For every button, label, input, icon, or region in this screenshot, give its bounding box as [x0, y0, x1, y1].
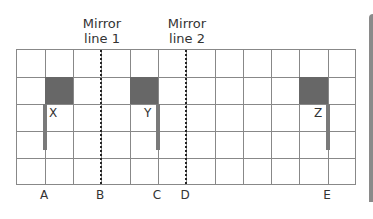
shape-z-label: Z [314, 106, 322, 120]
shape-y-square [130, 77, 158, 104]
grid-line [130, 50, 131, 184]
shape-x-label: X [49, 106, 57, 120]
axis-label-b: B [93, 188, 107, 202]
mirror-line-1-title-top: Mirror [72, 16, 132, 31]
mirror-line-1-title-bottom: line 1 [72, 31, 132, 46]
mirror-line-1 [100, 50, 102, 184]
shape-y-stem [156, 104, 160, 150]
grid-line [215, 50, 216, 184]
axis-label-d: D [178, 188, 192, 202]
shape-z-stem [326, 104, 330, 150]
grid-line [299, 50, 300, 184]
mirror-line-2-title: Mirror line 2 [157, 16, 217, 46]
square-grid: X Y Z [16, 49, 356, 185]
axis-label-e: E [320, 188, 334, 202]
grid-line [243, 50, 244, 184]
mirror-line-2-title-top: Mirror [157, 16, 217, 31]
mirror-line-1-title: Mirror line 1 [72, 16, 132, 46]
grid-line [73, 50, 74, 184]
shape-x-stem [43, 104, 47, 150]
page-edge-bar [369, 14, 373, 202]
shape-y-label: Y [144, 106, 151, 120]
axis-label-c: C [150, 188, 164, 202]
mirror-line-2-title-bottom: line 2 [157, 31, 217, 46]
mirror-line-2 [185, 50, 187, 184]
shape-z-square [299, 77, 328, 104]
shape-x-square [45, 77, 73, 104]
grid-line [271, 50, 272, 184]
axis-label-a: A [37, 188, 51, 202]
